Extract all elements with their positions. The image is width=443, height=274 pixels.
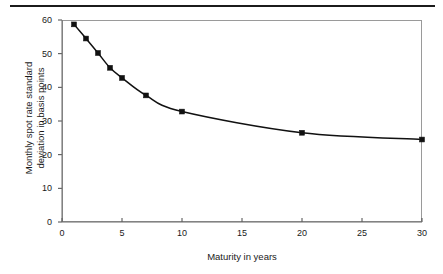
y-axis-title-line-2: deviation in basis points [35, 23, 47, 213]
data-point-marker [96, 51, 101, 56]
x-axis-tick-label: 25 [351, 228, 373, 238]
x-axis-tick-label: 15 [231, 228, 253, 238]
figure-container: 0102030405060 051015202530 Maturity in y… [0, 0, 443, 274]
data-point-marker [72, 22, 77, 27]
data-point-marker [84, 36, 89, 41]
x-axis-tick-label: 0 [51, 228, 73, 238]
y-axis-title-line-1: Monthly spot rate standard [23, 23, 35, 213]
x-axis-tick-label: 20 [291, 228, 313, 238]
data-point-marker [180, 109, 185, 114]
x-axis-tick-label: 5 [111, 228, 133, 238]
data-point-marker [420, 137, 425, 142]
y-axis-tick-label: 0 [32, 217, 52, 227]
data-point-marker [108, 65, 113, 70]
y-axis-title: Monthly spot rate standard deviation in … [23, 23, 47, 213]
x-axis-tick-label: 10 [171, 228, 193, 238]
x-axis-tick-label: 30 [411, 228, 433, 238]
data-point-marker [120, 76, 125, 81]
series-line [74, 24, 422, 139]
data-point-marker [144, 93, 149, 98]
x-axis-title: Maturity in years [62, 251, 422, 262]
data-point-marker [300, 130, 305, 135]
